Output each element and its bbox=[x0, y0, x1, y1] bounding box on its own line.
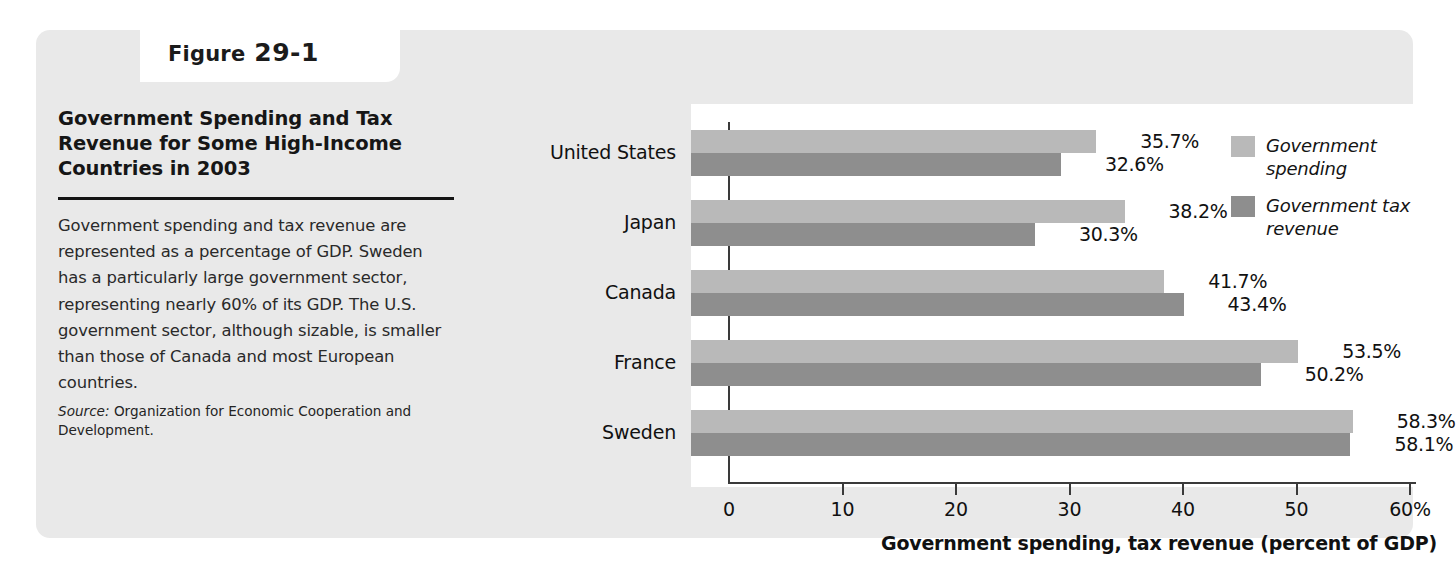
figure-caption: Government spending and tax revenue are … bbox=[58, 213, 456, 396]
x-tick-10 bbox=[842, 484, 844, 495]
bar-france-spending bbox=[691, 340, 1298, 363]
bar-value-label: 38.2% bbox=[1169, 200, 1228, 223]
page-title: Government Spending and Tax Revenue for … bbox=[58, 106, 458, 181]
x-axis-line bbox=[728, 482, 1416, 484]
legend-swatch-icon-revenue bbox=[1231, 196, 1255, 217]
figure-number-tab: Figure29-1 bbox=[140, 30, 400, 82]
category-label-sweden: Sweden bbox=[456, 421, 676, 443]
legend-label-revenue: Government tax revenue bbox=[1266, 194, 1421, 240]
bar-value-label: 58.3% bbox=[1397, 410, 1456, 433]
x-tick-40 bbox=[1182, 484, 1184, 495]
source-label: Source: bbox=[58, 403, 110, 419]
x-axis-title: Government spending, tax revenue (percen… bbox=[881, 532, 1437, 554]
bar-value-label: 43.4% bbox=[1228, 293, 1287, 316]
bar-united-states-revenue bbox=[691, 153, 1061, 176]
bar-value-label: 32.6% bbox=[1105, 153, 1164, 176]
x-tick-30 bbox=[1069, 484, 1071, 495]
category-label-japan: Japan bbox=[456, 211, 676, 233]
bar-value-label: 30.3% bbox=[1079, 223, 1138, 246]
x-tick-label-20: 20 bbox=[921, 498, 991, 520]
bar-value-label: 58.1% bbox=[1394, 433, 1453, 456]
figure-label: Figure bbox=[168, 42, 245, 66]
x-tick-20 bbox=[955, 484, 957, 495]
category-label-canada: Canada bbox=[456, 281, 676, 303]
category-label-france: France bbox=[456, 351, 676, 373]
legend-item-government-spending: Government spending bbox=[1231, 134, 1421, 180]
bar-value-label: 35.7% bbox=[1140, 130, 1199, 153]
legend-swatch-icon-spending bbox=[1231, 136, 1255, 157]
x-tick-60 bbox=[1409, 484, 1411, 495]
figure-description-column: Government Spending and Tax Revenue for … bbox=[58, 106, 458, 439]
figure-number-tab-text: Figure29-1 bbox=[168, 38, 319, 67]
title-divider bbox=[58, 197, 454, 200]
legend-label-spending: Government spending bbox=[1266, 134, 1421, 180]
bar-france-revenue bbox=[691, 363, 1261, 386]
bar-value-label: 41.7% bbox=[1208, 270, 1267, 293]
figure-panel: Figure29-1 Government Spending and Tax R… bbox=[36, 30, 1413, 538]
bar-value-label: 50.2% bbox=[1305, 363, 1364, 386]
bar-japan-spending bbox=[691, 200, 1125, 223]
bar-sweden-revenue bbox=[691, 433, 1350, 456]
bar-sweden-spending bbox=[691, 410, 1353, 433]
chart-plot-area: 35.7%32.6%38.2%30.3%41.7%43.4%53.5%50.2%… bbox=[691, 104, 1421, 487]
category-label-united-states: United States bbox=[456, 141, 676, 163]
x-tick-50 bbox=[1296, 484, 1298, 495]
bar-value-label: 53.5% bbox=[1342, 340, 1401, 363]
x-tick-label-10: 10 bbox=[808, 498, 878, 520]
x-tick-label-0: 0 bbox=[694, 498, 764, 520]
x-tick-label-40: 40 bbox=[1148, 498, 1218, 520]
figure-source: Source: Organization for Economic Cooper… bbox=[58, 402, 456, 439]
x-tick-label-30: 30 bbox=[1035, 498, 1105, 520]
bar-japan-revenue bbox=[691, 223, 1035, 246]
legend-item-government-tax-revenue: Government tax revenue bbox=[1231, 194, 1421, 240]
figure-number: 29-1 bbox=[254, 38, 319, 67]
source-text: Organization for Economic Cooperation an… bbox=[58, 403, 411, 438]
bar-canada-spending bbox=[691, 270, 1164, 293]
chart-legend: Government spending Government tax reven… bbox=[1231, 134, 1421, 254]
x-tick-label-50: 50 bbox=[1262, 498, 1332, 520]
bar-united-states-spending bbox=[691, 130, 1096, 153]
bar-canada-revenue bbox=[691, 293, 1184, 316]
x-tick-label-60: 60% bbox=[1375, 498, 1445, 520]
